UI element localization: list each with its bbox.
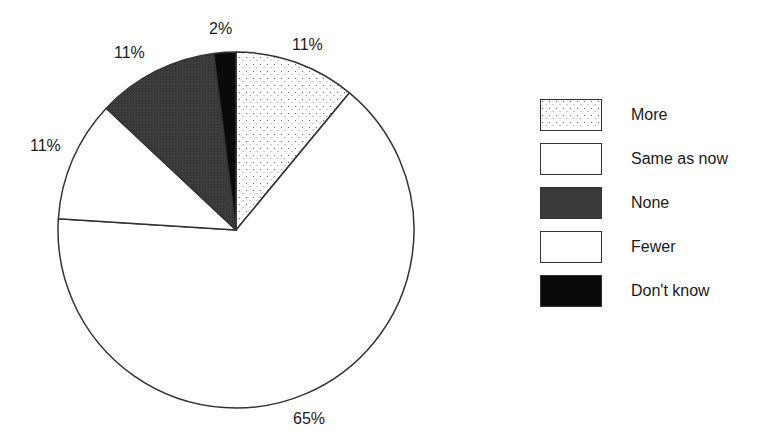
legend: More Same as now None Fewer Don't know [540,97,728,317]
swatch-more [540,99,602,131]
legend-item-more: More [540,97,728,133]
legend-item-same-as-now: Same as now [540,141,728,177]
legend-label: None [631,194,669,212]
label-none: 11% [114,44,145,62]
swatch-none [540,187,602,219]
swatch-fewer [540,231,602,263]
legend-label: Fewer [631,238,675,256]
swatch-same-as-now [540,143,602,175]
legend-item-none: None [540,185,728,221]
label-same: 65% [293,410,325,428]
swatch-dont-know [540,275,602,307]
label-more: 11% [292,36,323,54]
legend-item-fewer: Fewer [540,229,728,265]
legend-label: More [631,106,667,124]
legend-label: Don't know [631,282,710,300]
legend-item-dont-know: Don't know [540,273,728,309]
legend-label: Same as now [631,150,728,168]
label-dontknow: 2% [209,20,232,38]
label-fewer: 11% [30,137,61,155]
